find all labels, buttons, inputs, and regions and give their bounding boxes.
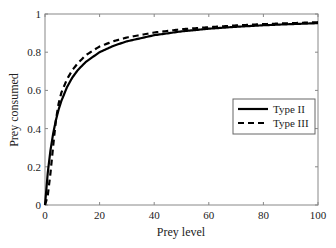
legend-label: Type II [273,103,305,115]
x-tick-label: 100 [310,209,327,221]
legend: Type IIType III [233,99,315,134]
y-tick-label: 1 [36,8,42,20]
legend-label: Type III [273,117,309,129]
x-tick-label: 40 [149,209,161,221]
y-tick-label: 0.4 [27,123,41,135]
x-tick-label: 60 [203,209,215,221]
y-tick-label: 0.8 [27,46,41,58]
x-tick-label: 80 [258,209,270,221]
y-axis-label: Prey consumed [7,73,21,147]
x-tick-label: 0 [42,209,48,221]
y-tick-label: 0 [36,199,42,211]
x-axis-label: Prey level [157,225,206,239]
y-tick-label: 0.2 [27,161,41,173]
y-tick-label: 0.6 [27,84,41,96]
chart: 02040608010000.20.40.60.81 Type IIType I… [0,0,336,248]
x-tick-label: 20 [94,209,106,221]
